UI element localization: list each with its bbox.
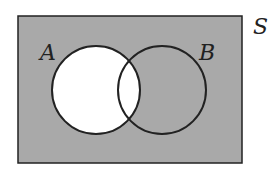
set-b-label: B bbox=[198, 40, 215, 65]
venn-diagram: A B S bbox=[0, 0, 277, 179]
universe-label: S bbox=[253, 14, 268, 39]
set-a-label: A bbox=[38, 40, 56, 65]
